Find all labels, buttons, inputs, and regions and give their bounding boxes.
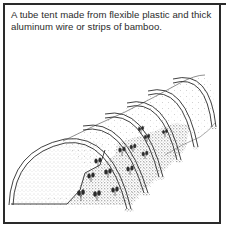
- figure-panel: A tube tent made from flexible plastic a…: [3, 3, 221, 224]
- tube-tent-icon: [5, 5, 219, 222]
